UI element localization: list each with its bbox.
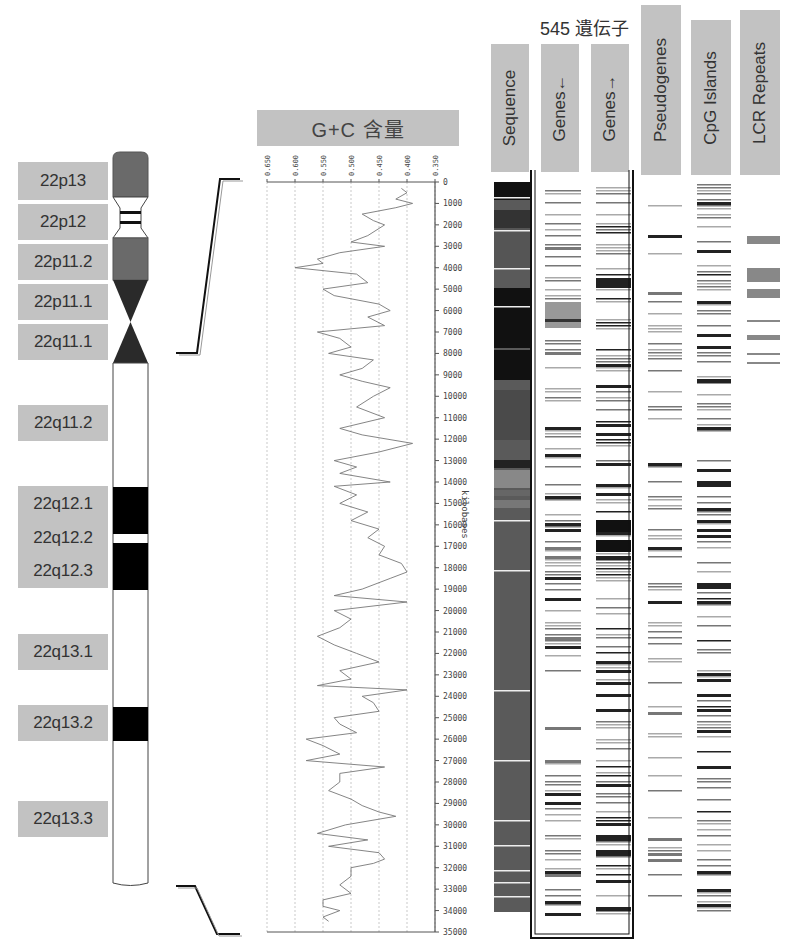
svg-text:19000: 19000 <box>443 585 467 594</box>
svg-text:29000: 29000 <box>443 799 467 808</box>
track-header-lcr-repeats: LCR Repeats <box>740 10 780 175</box>
band-label-22q11-1: 22q11.1 <box>18 324 108 360</box>
svg-text:21000: 21000 <box>443 628 467 637</box>
band-label-22q13-1: 22q13.1 <box>18 634 108 670</box>
svg-text:22000: 22000 <box>443 649 467 658</box>
band-label-22p12: 22p12 <box>18 204 108 240</box>
svg-text:4000: 4000 <box>443 264 462 273</box>
band-label-22q12-1: 22q12.1 <box>18 486 108 521</box>
svg-text:14000: 14000 <box>443 478 467 487</box>
feature-tracks <box>485 170 794 950</box>
svg-text:34000: 34000 <box>443 907 467 916</box>
genes-reverse-track <box>545 190 581 916</box>
svg-text:8000: 8000 <box>443 349 462 358</box>
svg-text:0.500: 0.500 <box>348 155 356 176</box>
band-label-22q11-2: 22q11.2 <box>18 405 108 441</box>
pseudogenes-track <box>648 205 682 897</box>
svg-text:32000: 32000 <box>443 864 467 873</box>
svg-text:1000: 1000 <box>443 199 462 208</box>
band-label-22p13: 22p13 <box>18 162 108 200</box>
y-axis-label: kilobases <box>450 490 470 530</box>
svg-text:26000: 26000 <box>443 735 467 744</box>
svg-text:31000: 31000 <box>443 842 467 851</box>
track-header-sequence: Sequence <box>491 44 529 172</box>
svg-text:6000: 6000 <box>443 307 462 316</box>
svg-text:3000: 3000 <box>443 242 462 251</box>
svg-text:23000: 23000 <box>443 671 467 680</box>
svg-text:17000: 17000 <box>443 542 467 551</box>
svg-text:33000: 33000 <box>443 885 467 894</box>
svg-text:0: 0 <box>443 178 448 187</box>
zoom-bracket <box>170 170 250 950</box>
band-label-22p11-2: 22p11.2 <box>18 244 108 280</box>
band-label-22q12-2: 22q12.2 <box>18 520 108 555</box>
svg-text:0.550: 0.550 <box>320 155 328 176</box>
svg-text:9000: 9000 <box>443 371 462 380</box>
svg-text:24000: 24000 <box>443 692 467 701</box>
svg-text:25000: 25000 <box>443 714 467 723</box>
svg-text:0.400: 0.400 <box>404 155 412 176</box>
svg-text:12000: 12000 <box>443 435 467 444</box>
gc-content-plot: 0.6500.6000.5500.5000.4500.4000.35001000… <box>255 150 485 945</box>
band-label-22p11-1: 22p11.1 <box>18 284 108 320</box>
svg-text:13000: 13000 <box>443 457 467 466</box>
svg-text:7000: 7000 <box>443 328 462 337</box>
svg-text:18000: 18000 <box>443 564 467 573</box>
track-header-cpg-islands: CpG Islands <box>691 20 731 175</box>
svg-text:11000: 11000 <box>443 414 467 423</box>
track-header-pseudogenes: Pseudogenes <box>641 5 681 175</box>
svg-text:30000: 30000 <box>443 821 467 830</box>
genes-forward-track <box>596 187 631 915</box>
gc-plot-title: G+C 含量 <box>257 110 459 146</box>
svg-text:0.450: 0.450 <box>376 155 384 176</box>
track-header-genes-reverse: Genes← <box>541 44 579 172</box>
svg-text:27000: 27000 <box>443 757 467 766</box>
band-label-22q12-3: 22q12.3 <box>18 554 108 588</box>
sequence-track <box>494 182 530 912</box>
svg-text:10000: 10000 <box>443 392 467 401</box>
svg-text:20000: 20000 <box>443 607 467 616</box>
gene-count-label: 545 遺伝子 <box>540 14 629 40</box>
svg-text:28000: 28000 <box>443 778 467 787</box>
track-header-genes-forward: Genes→ <box>591 44 629 172</box>
svg-text:0.350: 0.350 <box>432 155 440 176</box>
lcr-repeats-track <box>747 236 780 364</box>
svg-text:0.650: 0.650 <box>264 155 272 176</box>
svg-text:0.600: 0.600 <box>292 155 300 176</box>
band-label-22q13-3: 22q13.3 <box>18 801 108 837</box>
svg-text:5000: 5000 <box>443 285 462 294</box>
svg-text:35000: 35000 <box>443 928 467 937</box>
band-label-22q13-2: 22q13.2 <box>18 705 108 741</box>
cpg-islands-track <box>697 184 731 912</box>
chromosome-ideogram <box>108 150 153 890</box>
svg-text:2000: 2000 <box>443 221 462 230</box>
